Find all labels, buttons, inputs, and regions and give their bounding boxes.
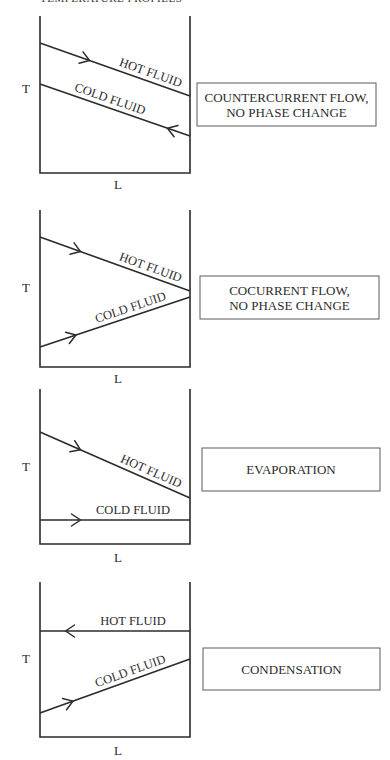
axes-frame — [40, 582, 190, 737]
panel-condensation: TLHOT FLUIDCOLD FLUIDCONDENSATION — [22, 582, 380, 758]
x-axis-label: L — [114, 371, 122, 386]
y-axis-label: T — [22, 81, 30, 96]
flow-type-label: COCURRENT FLOW, — [229, 283, 350, 298]
hot-fluid-label: HOT FLUID — [100, 614, 165, 628]
axes-frame — [40, 210, 190, 367]
cold-fluid-line — [40, 659, 190, 713]
panel-countercurrent: TLHOT FLUIDCOLD FLUIDCOUNTERCURRENT FLOW… — [22, 16, 376, 192]
flow-type-label: EVAPORATION — [246, 462, 336, 477]
panel-cocurrent: TLHOT FLUIDCOLD FLUIDCOCURRENT FLOW,NO P… — [22, 210, 379, 386]
hot-fluid-line — [40, 237, 190, 291]
cold-fluid-label: COLD FLUID — [96, 503, 170, 517]
x-axis-label: L — [114, 550, 122, 565]
flow-type-label: COUNTERCURRENT FLOW, — [205, 90, 369, 105]
flow-type-box: COUNTERCURRENT FLOW,NO PHASE CHANGE — [197, 83, 376, 126]
flow-type-box: EVAPORATION — [202, 448, 380, 491]
flow-type-label: CONDENSATION — [241, 662, 342, 677]
hot-fluid-label: HOT FLUID — [117, 55, 183, 90]
flow-type-label: NO PHASE CHANGE — [229, 298, 350, 313]
flow-type-label: NO PHASE CHANGE — [226, 105, 347, 120]
y-axis-label: T — [22, 651, 30, 666]
x-axis-label: L — [114, 743, 122, 758]
hot-fluid-line — [40, 432, 190, 498]
temperature-profile-diagrams: TLHOT FLUIDCOLD FLUIDCOUNTERCURRENT FLOW… — [0, 0, 390, 760]
y-axis-label: T — [22, 459, 30, 474]
hot-fluid-line — [40, 43, 190, 96]
panel-evaporation: TLHOT FLUIDCOLD FLUIDEVAPORATION — [22, 389, 380, 565]
hot-fluid-label: HOT FLUID — [118, 250, 184, 285]
y-axis-label: T — [22, 280, 30, 295]
x-axis-label: L — [114, 177, 122, 192]
flow-type-box: CONDENSATION — [203, 648, 380, 690]
flow-type-box: COCURRENT FLOW,NO PHASE CHANGE — [200, 276, 379, 319]
